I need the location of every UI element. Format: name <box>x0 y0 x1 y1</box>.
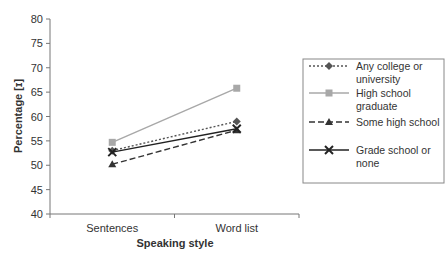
x-axis-title: Speaking style <box>136 237 213 249</box>
y-tick-label: 40 <box>31 208 43 220</box>
y-axis-title: Percentage [ɪ] <box>12 79 24 153</box>
legend: Any college oruniversityHigh schoolgradu… <box>303 59 444 183</box>
y-tick-label: 45 <box>31 184 43 196</box>
y-tick-label: 60 <box>31 111 43 123</box>
line-chart: 404550556065707580 SentencesWord list An… <box>0 0 448 262</box>
legend-label: Grade school or <box>356 144 431 156</box>
legend-label: High school <box>356 87 411 99</box>
y-tick-label: 70 <box>31 62 43 74</box>
y-tick-label: 65 <box>31 86 43 98</box>
legend-label: Some high school <box>356 116 439 128</box>
y-axis: 404550556065707580 <box>31 13 50 220</box>
series-high-school-graduate <box>109 85 241 146</box>
legend-label: university <box>356 73 401 85</box>
legend-label: none <box>356 157 380 169</box>
legend-label: Any college or <box>356 60 423 72</box>
x-tick-label: Sentences <box>86 222 138 234</box>
legend-label: graduate <box>356 100 398 112</box>
y-tick-label: 55 <box>31 135 43 147</box>
data-series <box>108 85 241 168</box>
y-tick-label: 80 <box>31 13 43 25</box>
y-tick-label: 50 <box>31 159 43 171</box>
x-tick-label: Word list <box>215 222 258 234</box>
y-tick-label: 75 <box>31 37 43 49</box>
series-grade-school-or-none <box>108 125 241 156</box>
x-axis: SentencesWord list <box>50 214 299 234</box>
